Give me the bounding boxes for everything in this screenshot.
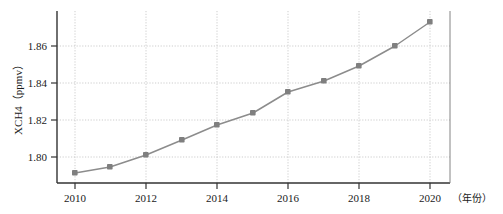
x-axis-unit-label: （年份） [452,192,492,204]
data-point-2017[interactable] [321,78,327,84]
x-tick-label-2020: 2020 [419,192,442,204]
x-tick-label-2016: 2016 [277,192,300,204]
y-axis-title: XCH4（ppmv） [12,59,24,135]
data-point-2016[interactable] [285,89,291,95]
y-tick-label-1-84: 1.84 [28,77,48,89]
x-tick-label-2014: 2014 [206,192,229,204]
y-axis-title-group: XCH4（ppmv） [12,59,24,135]
y-axis-ticks [51,46,57,157]
x-tick-label-2018: 2018 [348,192,371,204]
x-tick-label-2012: 2012 [135,192,157,204]
y-tick-label-1-80: 1.80 [28,151,48,163]
x-tick-label-2010: 2010 [64,192,87,204]
data-point-2018[interactable] [356,63,362,69]
y-tick-label-1-82: 1.82 [28,114,47,126]
data-point-2012[interactable] [143,152,149,158]
data-point-2019[interactable] [392,43,398,49]
x-axis-ticks [75,183,430,189]
data-point-2020[interactable] [427,19,433,25]
chart-container: 1.86 1.84 1.82 1.80 2010 2012 2014 2016 … [0,0,503,214]
data-point-2013[interactable] [179,137,185,143]
y-tick-label-1-86: 1.86 [28,40,48,52]
data-point-2014[interactable] [214,122,220,128]
data-point-2011[interactable] [107,164,113,170]
data-point-2010[interactable] [72,170,78,176]
data-point-2015[interactable] [250,110,256,116]
line-chart: 1.86 1.84 1.82 1.80 2010 2012 2014 2016 … [0,0,503,214]
